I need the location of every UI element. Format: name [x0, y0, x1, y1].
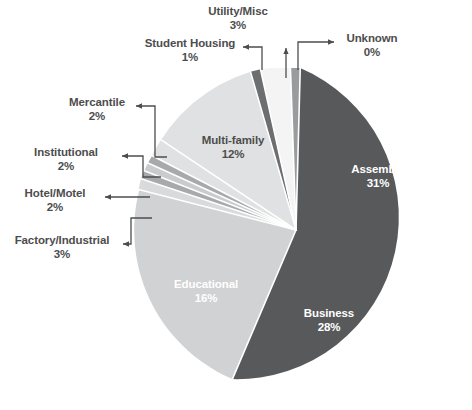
slice-label-multi-family: Multi-family 12% [202, 133, 265, 161]
callout-percent-mercantile: 2% [69, 109, 125, 123]
leader-arrow-hotel-motel [105, 194, 111, 199]
slice-label-assembly: Assembly 31% [351, 162, 405, 190]
slice-title-business: Business [304, 306, 354, 320]
slice-percent-assembly: 31% [351, 176, 405, 190]
slice-label-educational: Educational 16% [174, 277, 238, 305]
leader-arrow-unknown [328, 39, 334, 44]
pie-slices [134, 68, 399, 379]
slice-title-assembly: Assembly [351, 162, 405, 176]
slice-title-multi-family: Multi-family [202, 133, 265, 147]
leader-line-student-housing [243, 47, 262, 70]
callout-title-unknown: Unknown [346, 31, 397, 45]
callout-label-factory-industrial: Factory/Industrial 3% [15, 233, 110, 261]
callout-label-student-housing: Student Housing 1% [145, 36, 236, 64]
callout-percent-utility-misc: 3% [208, 18, 268, 32]
slice-percent-multi-family: 12% [202, 147, 265, 161]
leader-arrow-mercantile [136, 103, 142, 108]
callout-label-hotel-motel: Hotel/Motel 2% [25, 186, 86, 214]
callout-percent-hotel-motel: 2% [25, 200, 86, 214]
callout-label-institutional: Institutional 2% [34, 145, 98, 173]
callout-title-student-housing: Student Housing [145, 36, 236, 50]
slice-percent-educational: 16% [174, 291, 238, 305]
leader-arrow-factory-industrial [123, 241, 129, 246]
slice-label-business: Business 28% [304, 306, 354, 334]
callout-title-institutional: Institutional [34, 145, 98, 159]
leader-arrow-institutional [122, 153, 128, 158]
callout-label-utility-misc: Utility/Misc 3% [208, 4, 268, 32]
slice-percent-business: 28% [304, 320, 354, 334]
callout-label-mercantile: Mercantile 2% [69, 95, 125, 123]
leader-line-unknown [298, 42, 334, 70]
callout-percent-student-housing: 1% [145, 50, 236, 64]
callout-percent-unknown: 0% [346, 45, 397, 59]
leader-arrow-student-housing [243, 44, 249, 49]
pie-chart-figure: Utility/Misc 3% Unknown 0% Student Housi… [0, 0, 472, 410]
leader-arrow-utility-misc [283, 48, 288, 54]
callout-label-unknown: Unknown 0% [346, 31, 397, 59]
callout-title-utility-misc: Utility/Misc [208, 4, 268, 18]
callout-title-factory-industrial: Factory/Industrial [15, 233, 110, 247]
slice-title-educational: Educational [174, 277, 238, 291]
callout-percent-institutional: 2% [34, 159, 98, 173]
callout-percent-factory-industrial: 3% [15, 247, 110, 261]
callout-title-hotel-motel: Hotel/Motel [25, 186, 86, 200]
callout-title-mercantile: Mercantile [69, 95, 125, 109]
